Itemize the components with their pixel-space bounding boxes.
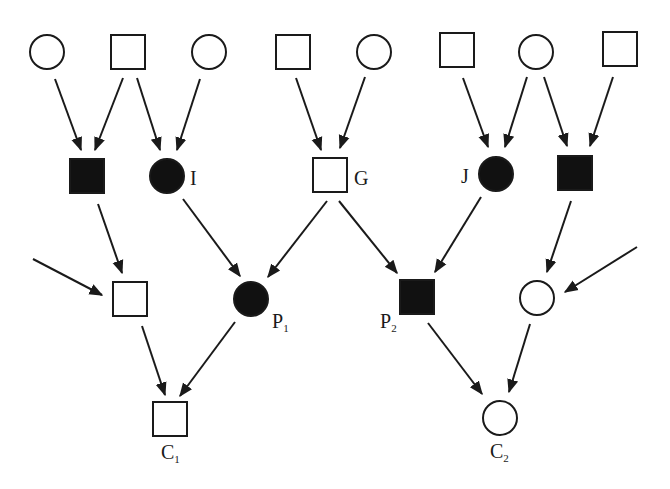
unaffected-male-square-G bbox=[313, 158, 347, 192]
edge-arrow-t2-to-I bbox=[137, 78, 160, 150]
affected-female-circle-P1 bbox=[234, 282, 268, 316]
unaffected-male-square-t4 bbox=[276, 35, 310, 69]
affected-male-square-m5 bbox=[558, 156, 592, 190]
unaffected-female-circle-t5 bbox=[357, 35, 391, 69]
edge-arrow-t4-to-G bbox=[296, 78, 321, 150]
unaffected-male-square-t6 bbox=[440, 33, 474, 67]
edge-arrow-P2-to-C2 bbox=[428, 323, 482, 394]
node-label-C2: C2 bbox=[490, 440, 509, 464]
unaffected-male-square-b1 bbox=[113, 282, 147, 316]
edge-arrow-t7-to-J bbox=[505, 77, 527, 147]
edge-arrow-G-to-P1 bbox=[268, 201, 327, 277]
affected-male-square-m1 bbox=[70, 159, 104, 193]
unaffected-male-square-t8 bbox=[603, 32, 637, 66]
edge-arrow-ext-right-to-b4 bbox=[565, 247, 637, 292]
labels-layer: IGJP1P2C1C2 bbox=[161, 165, 509, 465]
unaffected-female-circle-t1 bbox=[30, 35, 64, 69]
node-label-P1: P1 bbox=[272, 310, 289, 334]
edge-arrow-t2-to-m1 bbox=[95, 78, 123, 150]
edge-arrow-t1-to-m1 bbox=[55, 79, 81, 150]
pedigree-diagram: IGJP1P2C1C2 bbox=[0, 0, 670, 489]
unaffected-male-square-t2 bbox=[111, 35, 145, 69]
node-label-G: G bbox=[354, 167, 368, 189]
edge-arrow-m1-to-b1 bbox=[98, 204, 122, 273]
edge-arrow-ext-left-to-b1 bbox=[33, 259, 102, 295]
unaffected-female-circle-b4 bbox=[520, 281, 554, 315]
unaffected-male-square-C1 bbox=[153, 402, 187, 436]
edge-arrow-t6-to-J bbox=[463, 78, 488, 147]
edge-arrow-G-to-P2 bbox=[339, 201, 397, 273]
unaffected-female-circle-C2 bbox=[483, 401, 517, 435]
edge-arrow-P1-to-C1 bbox=[180, 322, 235, 396]
affected-female-circle-J bbox=[479, 157, 513, 191]
unaffected-female-circle-t7 bbox=[519, 35, 553, 69]
unaffected-female-circle-t3 bbox=[192, 35, 226, 69]
node-label-I: I bbox=[190, 167, 197, 189]
edge-arrow-b1-to-C1 bbox=[142, 326, 165, 395]
edge-arrow-I-to-P1 bbox=[183, 199, 240, 276]
edge-arrow-m5-to-b4 bbox=[547, 201, 571, 272]
node-label-J: J bbox=[461, 165, 469, 187]
edge-arrow-b4-to-C2 bbox=[509, 324, 530, 392]
edge-arrow-t5-to-G bbox=[340, 77, 365, 148]
node-label-C1: C1 bbox=[161, 441, 180, 465]
affected-female-circle-I bbox=[150, 159, 184, 193]
edge-arrow-t8-to-m5 bbox=[590, 77, 613, 146]
node-label-P2: P2 bbox=[380, 310, 397, 334]
affected-male-square-P2 bbox=[400, 280, 434, 314]
edges-layer bbox=[33, 77, 637, 396]
edge-arrow-t7-to-m5 bbox=[544, 77, 567, 146]
nodes-layer bbox=[30, 32, 637, 436]
edge-arrow-t3-to-I bbox=[177, 79, 200, 150]
edge-arrow-J-to-P2 bbox=[435, 197, 481, 272]
